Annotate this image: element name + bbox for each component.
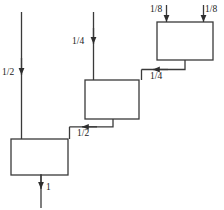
middle-block	[85, 80, 139, 119]
label-quarter-feed: 1/4	[72, 36, 84, 46]
label-half-link: 1/2	[77, 128, 89, 138]
bottom-block	[11, 139, 68, 175]
label-quarter-link: 1/4	[150, 71, 162, 81]
top-block	[157, 22, 213, 60]
block-flow-diagram: 1/8 1/8 1/4 1/4 1/2 1/2 1	[0, 0, 224, 210]
label-eighth-left: 1/8	[150, 4, 162, 14]
diagram-canvas	[0, 0, 224, 210]
label-one-product: 1	[46, 182, 51, 192]
label-eighth-right: 1/8	[205, 4, 217, 14]
link-stream-half-segment-a	[70, 119, 114, 127]
label-half-feed: 1/2	[2, 67, 14, 77]
link-stream-quarter-segment-a	[142, 60, 186, 70]
